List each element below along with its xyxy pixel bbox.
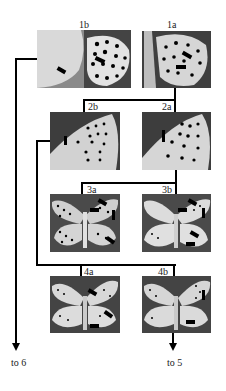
connector-row4-horizontal: [36, 264, 176, 266]
photo-1b: [37, 30, 131, 88]
node-label-1b: 1b: [79, 20, 89, 30]
node-label-2b: 2b: [88, 102, 98, 112]
butterfly-spread-4b-icon: [142, 276, 211, 333]
arrow-to5-icon: [169, 343, 177, 351]
photo-2b: [50, 112, 120, 170]
connector-2b-vertical: [36, 140, 38, 266]
connector-3b-drop: [175, 182, 177, 194]
destination-to-6: to 6: [11, 358, 26, 368]
butterfly-spread-3b-icon: [142, 194, 211, 252]
butterfly-spread-3a-icon: [50, 194, 120, 252]
node-label-2a: 2a: [162, 102, 171, 112]
connector-2b-left: [36, 140, 51, 142]
connector-to6-vertical: [15, 58, 17, 344]
connector-2b-drop: [83, 99, 85, 112]
connector-1b-left: [15, 58, 38, 60]
connector-2a-drop: [174, 99, 176, 112]
arrow-to6-icon: [12, 343, 20, 351]
node-label-1a: 1a: [167, 20, 176, 30]
connector-3a-drop: [81, 182, 83, 194]
connector-4a-drop: [80, 264, 82, 276]
photo-1a: [142, 31, 211, 88]
butterfly-spread-4a-icon: [50, 276, 120, 333]
destination-to-5: to 5: [167, 358, 182, 368]
butterfly-forewing-2a-icon: [142, 112, 211, 170]
butterfly-forewing-2b-icon: [50, 112, 120, 170]
photo-4b: [142, 276, 211, 333]
butterfly-wing-1b-icon: [37, 30, 131, 88]
connector-4b-drop: [173, 264, 175, 276]
photo-4a: [50, 276, 120, 333]
photo-2a: [142, 112, 211, 170]
photo-3a: [50, 194, 120, 252]
photo-3b: [142, 194, 211, 252]
butterfly-wing-1a-icon: [142, 31, 211, 88]
